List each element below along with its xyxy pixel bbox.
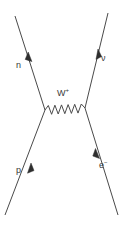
neutron-label: n	[16, 61, 21, 70]
proton-line	[5, 110, 45, 215]
electron-arrow-icon	[93, 149, 100, 159]
feynman-diagram: n ν p e− W+	[0, 0, 125, 225]
electron-label-superscript: −	[104, 159, 108, 165]
w-boson-label-superscript: +	[66, 87, 70, 93]
feynman-diagram-canvas	[0, 0, 125, 225]
w-boson-propagator-wave	[45, 104, 85, 114]
neutron-arrow-icon	[25, 52, 32, 62]
proton-label: p	[16, 166, 21, 175]
neutrino-label: ν	[101, 54, 106, 63]
proton-arrow-icon	[28, 163, 35, 173]
electron-label: e−	[99, 159, 108, 170]
w-boson-label-base: W	[57, 88, 66, 98]
w-boson-label: W+	[57, 87, 69, 98]
